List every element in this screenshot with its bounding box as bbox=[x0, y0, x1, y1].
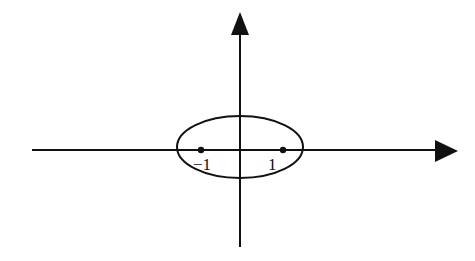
point-one bbox=[280, 147, 286, 153]
diagram-canvas: −1 1 bbox=[0, 0, 475, 261]
label-minus-one: −1 bbox=[193, 155, 211, 174]
point-minus-one bbox=[198, 147, 204, 153]
label-one: 1 bbox=[268, 155, 277, 174]
y-axis-arrow-icon bbox=[231, 12, 249, 35]
x-axis-arrow-icon bbox=[435, 140, 458, 162]
